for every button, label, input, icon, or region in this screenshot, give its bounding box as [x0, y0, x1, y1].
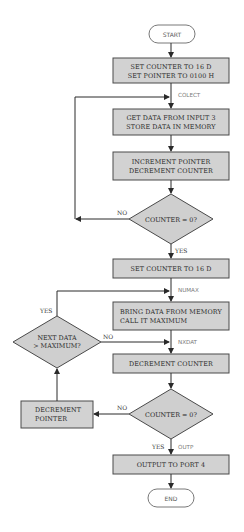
start-terminal: START: [149, 25, 195, 43]
dec-pointer-line1: DECREMENT: [35, 406, 82, 414]
numax-label: NUMAX: [178, 287, 199, 293]
colect-label: COLECT: [178, 92, 201, 98]
output-box: OUTPUT TO PORT 4: [113, 455, 229, 474]
nxdat-label: NXDAT: [178, 339, 198, 345]
decision2-yes-label: YES: [39, 307, 52, 314]
decision1-text: COUNTER = 0?: [145, 216, 197, 224]
start-label: START: [163, 31, 182, 38]
bring-data-box: BRING DATA FROM MEMORY CALL IT MAXIMUM: [113, 302, 229, 330]
bring-data-line1: BRING DATA FROM MEMORY: [120, 308, 222, 316]
dec-pointer-line2: POINTER: [35, 415, 67, 423]
decision-counter-zero-2: COUNTER = 0?: [129, 389, 213, 439]
end-label: END: [165, 495, 178, 502]
inc-dec-line1: INCREMENT POINTER: [132, 158, 211, 166]
decision2-no-label: NO: [103, 333, 113, 340]
dec-counter-line1: DECREMENT COUNTER: [129, 360, 213, 368]
get-data-box: GET DATA FROM INPUT 3 STORE DATA IN MEMO…: [113, 109, 229, 135]
init-line2: SET POINTER TO 0100 H: [128, 72, 215, 80]
dec-counter-box: DECREMENT COUNTER: [113, 354, 229, 373]
flowchart: START SET COUNTER TO 16 D SET POINTER TO…: [0, 0, 244, 532]
decision-counter-zero-1: COUNTER = 0?: [129, 194, 213, 244]
set-counter-line1: SET COUNTER TO 16 D: [131, 265, 212, 273]
decision3-no-label: NO: [117, 404, 127, 411]
decision1-no-label: NO: [117, 209, 127, 216]
outp-label: OUTP: [178, 444, 194, 450]
decision-next-data: NEXT DATA > MAXIMUM?: [13, 316, 101, 368]
inc-dec-box: INCREMENT POINTER DECREMENT COUNTER: [113, 152, 229, 180]
end-terminal: END: [148, 489, 194, 507]
decision2-line1: NEXT DATA: [37, 334, 76, 342]
inc-dec-line2: DECREMENT COUNTER: [129, 167, 213, 175]
dec-pointer-box: DECREMENT POINTER: [21, 401, 93, 428]
init-box: SET COUNTER TO 16 D SET POINTER TO 0100 …: [113, 58, 229, 83]
decision2-line2: > MAXIMUM?: [33, 342, 81, 350]
decision1-yes-label: YES: [174, 247, 187, 254]
get-data-line2: STORE DATA IN MEMORY: [126, 123, 216, 131]
bring-data-line2: CALL IT MAXIMUM: [120, 317, 187, 325]
output-line1: OUTPUT TO PORT 4: [137, 461, 206, 469]
set-counter-box: SET COUNTER TO 16 D: [113, 259, 229, 278]
decision3-text: COUNTER = 0?: [145, 411, 197, 419]
get-data-line1: GET DATA FROM INPUT 3: [126, 114, 215, 122]
decision3-yes-label: YES: [151, 443, 164, 450]
init-line1: SET COUNTER TO 16 D: [131, 63, 212, 71]
